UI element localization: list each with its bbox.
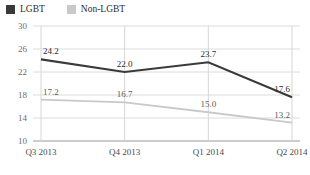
y-axis-tick-label: 18 xyxy=(18,90,28,100)
y-axis-tick-label: 22 xyxy=(18,67,27,77)
square-swatch-icon xyxy=(67,5,76,14)
x-axis-tick-label: Q2 2014 xyxy=(276,147,308,157)
plot-area: 101418222630 Q3 2013Q4 2013Q1 2014Q2 201… xyxy=(0,18,310,175)
series-layer xyxy=(41,59,292,122)
data-point-label: 22.0 xyxy=(117,59,133,69)
data-labels: 24.222.023.717.617.216.715.013.2 xyxy=(43,46,291,119)
x-axis-tick-label: Q3 2013 xyxy=(25,147,57,157)
y-axis-tick-label: 14 xyxy=(18,113,28,123)
data-point-label: 16.7 xyxy=(117,89,133,99)
y-axis-tick-label: 26 xyxy=(18,44,28,54)
legend-item-lgbt[interactable]: LGBT xyxy=(6,4,45,14)
x-gridlines xyxy=(41,26,292,141)
chart-legend: LGBT Non-LGBT xyxy=(6,2,125,16)
chart-canvas: 101418222630 Q3 2013Q4 2013Q1 2014Q2 201… xyxy=(0,18,310,175)
legend-item-non-lgbt[interactable]: Non-LGBT xyxy=(67,4,125,14)
y-axis-tick-label: 10 xyxy=(18,136,28,146)
x-axis-ticks: Q3 2013Q4 2013Q1 2014Q2 2014 xyxy=(25,147,308,157)
data-point-label: 15.0 xyxy=(200,99,216,109)
data-point-label: 23.7 xyxy=(200,49,216,59)
legend-label-non-lgbt: Non-LGBT xyxy=(81,4,125,14)
legend-label-lgbt: LGBT xyxy=(20,4,45,14)
data-point-label: 24.2 xyxy=(43,46,59,56)
line-chart: LGBT Non-LGBT 101418222630 Q3 2013Q4 201… xyxy=(0,0,310,175)
y-axis-ticks: 101418222630 xyxy=(18,21,28,146)
x-axis-tick-label: Q4 2013 xyxy=(109,147,141,157)
data-point-label: 17.6 xyxy=(274,84,290,94)
data-point-label: 17.2 xyxy=(43,87,59,97)
data-point-label: 13.2 xyxy=(274,110,290,120)
square-swatch-icon xyxy=(6,5,15,14)
series-line-lgbt xyxy=(41,59,292,97)
y-axis-tick-label: 30 xyxy=(18,21,28,31)
series-line-non-lgbt xyxy=(41,100,292,123)
x-axis-tick-label: Q1 2014 xyxy=(193,147,225,157)
